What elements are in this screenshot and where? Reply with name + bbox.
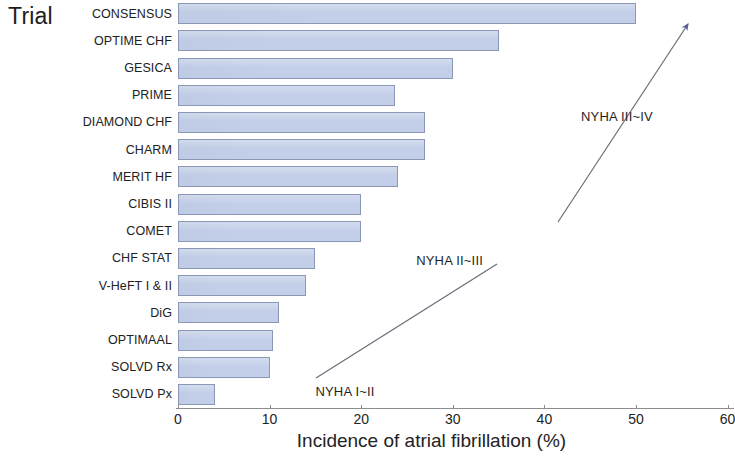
category-label: CONSENSUS (40, 7, 172, 21)
bar (178, 384, 215, 405)
category-label: CIBIS II (40, 197, 172, 211)
bar-row (178, 357, 727, 378)
bar (178, 30, 499, 51)
bar-row (178, 221, 727, 242)
bar (178, 166, 398, 187)
bar (178, 275, 306, 296)
x-axis-line (176, 408, 734, 409)
x-axis-tick (361, 405, 362, 409)
bar-row (178, 30, 727, 51)
bar-row (178, 85, 727, 106)
bar (178, 194, 361, 215)
x-axis-tick (270, 405, 271, 409)
x-axis-tick (728, 405, 729, 409)
bar-chart: Trial CONSENSUSOPTIME CHFGESICAPRIMEDIAM… (0, 0, 735, 460)
x-axis-tick-label: 40 (537, 411, 553, 427)
bar (178, 85, 395, 106)
x-axis-tick (544, 405, 545, 409)
x-axis-tick-label: 20 (353, 411, 369, 427)
bar (178, 302, 279, 323)
category-label: V-HeFT I & II (40, 279, 172, 293)
category-label: COMET (40, 224, 172, 238)
nyha-annotation: NYHA III~IV (581, 109, 653, 124)
category-label: PRIME (40, 88, 172, 102)
bar (178, 330, 273, 351)
bar-row (178, 302, 727, 323)
bar-row (178, 166, 727, 187)
bar (178, 248, 315, 269)
bar (178, 112, 425, 133)
x-axis-tick (636, 405, 637, 409)
nyha-annotation: NYHA I~II (315, 384, 374, 399)
x-axis-tick-label: 60 (720, 411, 735, 427)
category-label: GESICA (40, 61, 172, 75)
nyha-annotation: NYHA II~III (416, 253, 483, 268)
category-label: SOLVD Rx (40, 360, 172, 374)
x-axis-tick-label: 30 (445, 411, 461, 427)
category-label: DiG (40, 306, 172, 320)
category-label: CHARM (40, 143, 172, 157)
category-label: DIAMOND CHF (40, 115, 172, 129)
bar-row (178, 275, 727, 296)
category-label: CHF STAT (40, 251, 172, 265)
category-label: MERIT HF (40, 170, 172, 184)
category-label: OPTIME CHF (40, 34, 172, 48)
bar-row (178, 58, 727, 79)
bar (178, 139, 425, 160)
x-axis-tick-label: 50 (628, 411, 644, 427)
category-label: SOLVD Px (40, 387, 172, 401)
bar-row (178, 139, 727, 160)
bar-row (178, 330, 727, 351)
category-label-list: CONSENSUSOPTIME CHFGESICAPRIMEDIAMOND CH… (40, 0, 172, 408)
x-axis-tick (453, 405, 454, 409)
bar (178, 3, 636, 24)
bar-row (178, 384, 727, 405)
bar (178, 58, 453, 79)
bar-row (178, 194, 727, 215)
category-label: OPTIMAAL (40, 333, 172, 347)
x-axis-tick (178, 405, 179, 409)
x-axis-tick-label: 10 (262, 411, 278, 427)
x-axis-caption: Incidence of atrial fibrillation (%) (0, 430, 735, 452)
bar (178, 357, 270, 378)
x-axis-tick-label: 0 (174, 411, 182, 427)
bar (178, 221, 361, 242)
plot-area (178, 0, 727, 408)
bar-row (178, 3, 727, 24)
